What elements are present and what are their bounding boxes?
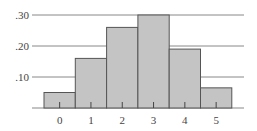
x-tick-label: 3 [151,114,157,126]
x-tick-label: 4 [182,114,188,126]
y-tick-label: .30 [15,9,29,21]
histogram-chart: .10.20.30 012345 [0,0,257,131]
x-axis-labels: 012345 [57,114,220,126]
bar-2 [107,27,138,108]
bar-3 [138,15,169,108]
x-tick-label: 1 [88,114,94,126]
x-tick-label: 5 [213,114,219,126]
bar-4 [169,49,200,108]
y-tick-label: .10 [15,71,29,83]
bar-1 [75,58,106,108]
y-axis-labels: .10.20.30 [15,9,29,83]
x-tick-label: 2 [120,114,126,126]
bars [44,15,232,108]
y-tick-label: .20 [15,40,29,52]
x-tick-label: 0 [57,114,63,126]
